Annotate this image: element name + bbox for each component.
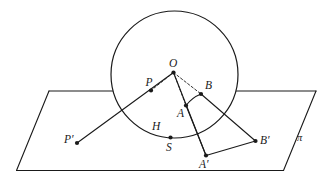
segment-A-to-A-prime <box>186 106 206 156</box>
segment-P-prime-to-O <box>77 73 174 144</box>
point-dot-P <box>149 88 153 92</box>
point-label-O: O <box>169 58 177 70</box>
point-dot-B <box>199 92 203 96</box>
segment-A-prime-to-B-prime <box>206 141 256 156</box>
point-dot-Bp <box>253 139 257 143</box>
figure-canvas <box>0 0 327 185</box>
point-dot-Pp <box>75 141 79 145</box>
pi-plane <box>17 91 317 171</box>
point-label-H: H <box>152 121 160 133</box>
point-dot-A <box>184 103 188 107</box>
point-label-Ap: A′ <box>199 159 209 171</box>
point-dot-O <box>171 70 175 74</box>
point-label-A: A <box>177 108 184 120</box>
plane-label-pi: π <box>297 133 302 144</box>
point-dot-Ap <box>204 153 208 157</box>
segment-B-to-B-prime <box>201 94 256 141</box>
point-label-S: S <box>166 142 172 154</box>
point-dot-S <box>168 135 172 139</box>
point-label-B: B <box>205 80 212 92</box>
dashed-O-to-P <box>151 73 174 91</box>
point-label-P: P <box>146 77 153 89</box>
plane-left-edge <box>17 91 50 171</box>
point-label-Pp: P′ <box>64 134 74 146</box>
point-label-Bp: B′ <box>260 135 270 147</box>
geometry-figure: OPBAHSP′B′A′π <box>0 0 327 185</box>
plane-right-edge <box>284 91 317 171</box>
arc-A-to-B <box>186 94 201 106</box>
